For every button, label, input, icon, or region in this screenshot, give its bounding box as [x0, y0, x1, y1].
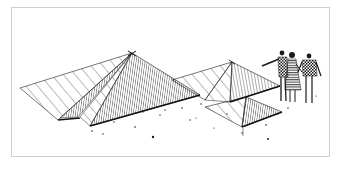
large-pyramid [20, 51, 200, 126]
people-group [262, 51, 321, 103]
figure-woman-striped-dress [285, 52, 302, 102]
figure-man-checkered [298, 54, 321, 103]
pyramids-illustration [0, 0, 341, 169]
figure-man-pointing [262, 51, 288, 101]
small-pyramid [205, 97, 282, 136]
